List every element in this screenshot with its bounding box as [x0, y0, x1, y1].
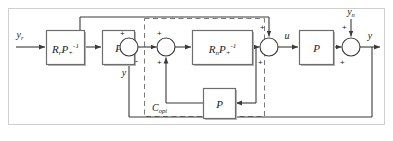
sign-plus-sum4-bottom: +: [340, 58, 345, 67]
diagram-svg: RrP+-1 P RnP+-1 P P + - + + + + + + yr y…: [0, 0, 393, 141]
label-y-measured: y: [121, 67, 127, 78]
label-yr-sub: r: [21, 34, 24, 41]
summing-junction-2[interactable]: [157, 38, 175, 56]
summing-junction-4[interactable]: [342, 38, 360, 56]
label-yn: yn: [346, 6, 355, 18]
label-yr: yr: [16, 29, 24, 41]
sign-plus-sum2-top: +: [157, 29, 162, 38]
label-copt: Copt: [152, 102, 167, 114]
block-label-p-plant: P: [312, 42, 320, 54]
sign-plus-sum3-top: +: [260, 23, 265, 32]
label-copt-sub: opt: [159, 107, 168, 114]
figure-border: [9, 9, 385, 125]
label-u: u: [285, 30, 290, 41]
lbl-sup-inv: -1: [230, 42, 236, 50]
summing-junction-3[interactable]: [260, 38, 278, 56]
sign-plus-sum2-bottom: +: [157, 58, 162, 67]
sign-plus-sum1: +: [120, 29, 125, 38]
sign-plus-sum4-top: +: [342, 23, 347, 32]
lbl-sup-inv: -1: [73, 42, 79, 50]
label-yn-sub: n: [352, 11, 355, 18]
label-y-output: y: [367, 30, 373, 41]
lbl-sub-plus: +: [226, 49, 231, 57]
block-diagram-canvas: RrP+-1 P RnP+-1 P P + - + + + + + + yr y…: [0, 0, 393, 141]
summing-junction-1[interactable]: [120, 38, 138, 56]
sign-plus-sum3-bottom: +: [258, 58, 263, 67]
lbl-sub-plus: +: [68, 49, 73, 57]
block-label-p-feedback: P: [215, 98, 223, 110]
sign-minus-sum1: -: [135, 56, 138, 66]
